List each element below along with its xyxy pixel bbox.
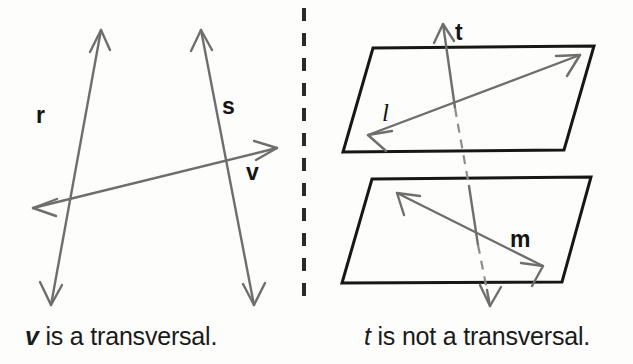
caption-left-symbol: v <box>25 322 39 350</box>
line-r <box>40 30 110 305</box>
caption-right-symbol: t <box>364 322 371 350</box>
upper-plane <box>343 46 594 152</box>
caption-left-text: is a transversal. <box>39 322 217 350</box>
label-v: v <box>246 159 259 185</box>
label-r: r <box>36 102 45 128</box>
geometry-figure: r s v <box>0 0 633 364</box>
left-panel-group: r s v <box>33 30 277 305</box>
right-panel-group: t l m <box>342 19 594 306</box>
label-s: s <box>222 93 235 119</box>
caption-left: v is a transversal. <box>25 322 217 351</box>
line-l <box>368 55 580 151</box>
caption-right: t is not a transversal. <box>364 322 590 351</box>
line-t <box>434 24 501 306</box>
label-t: t <box>455 19 463 45</box>
lower-plane <box>342 177 591 283</box>
figure-canvas: r s v <box>0 0 633 364</box>
label-l: l <box>382 99 389 126</box>
label-m: m <box>510 226 530 252</box>
caption-right-text: is not a transversal. <box>371 322 590 350</box>
